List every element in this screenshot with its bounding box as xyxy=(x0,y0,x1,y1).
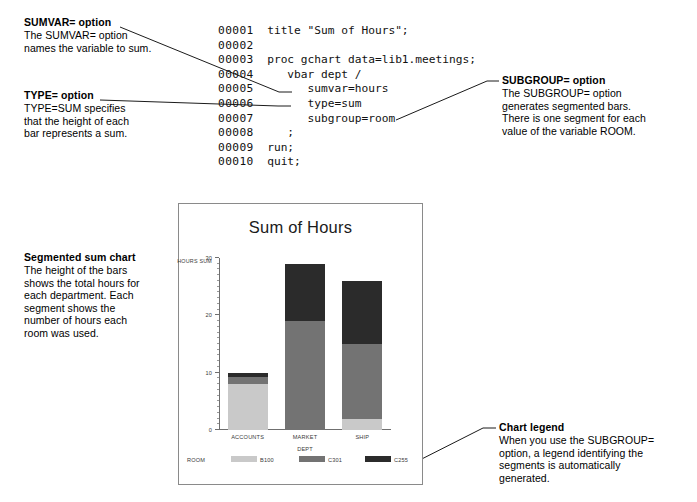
code-line: 00008 ; xyxy=(218,126,476,141)
callout-type-body: TYPE=SUM specifies that the height of ea… xyxy=(24,102,129,140)
code-line-number: 00002 xyxy=(218,39,254,52)
chart-bar xyxy=(228,373,268,430)
chart-bar-segment xyxy=(342,344,382,419)
y-axis-minor-tick xyxy=(217,332,219,333)
code-line-text: vbar dept / xyxy=(254,68,362,81)
callout-type: TYPE= option TYPE=SUM specifies that the… xyxy=(24,89,129,140)
y-axis-minor-tick xyxy=(217,297,219,298)
code-line: 00001 title "Sum of Hours"; xyxy=(218,24,476,39)
y-axis-minor-tick xyxy=(217,360,219,361)
callout-type-title: TYPE= option xyxy=(24,89,129,102)
y-axis-minor-tick xyxy=(217,406,219,407)
callout-chart-legend: Chart legend When you use the SUBGROUP= … xyxy=(499,421,654,484)
chart-legend-label: B100 xyxy=(260,457,274,463)
chart-bar-segment xyxy=(285,264,325,321)
x-axis-tick-label: MARKET xyxy=(275,434,335,440)
code-line-text: quit; xyxy=(254,155,301,168)
y-axis-minor-tick xyxy=(217,377,219,378)
code-line-number: 00010 xyxy=(218,155,254,168)
y-axis-minor-tick xyxy=(217,286,219,287)
y-axis-minor-tick xyxy=(217,400,219,401)
chart-legend: ROOM B100C301C255 xyxy=(187,454,415,468)
y-axis-tick-label: 30 xyxy=(172,255,212,261)
code-line-text: subgroup=room xyxy=(254,112,395,125)
code-line: 00004 vbar dept / xyxy=(218,68,476,83)
y-axis-minor-tick xyxy=(217,418,219,419)
chart-legend-swatch xyxy=(299,456,325,462)
code-line: 00003 proc gchart data=lib1.meetings; xyxy=(218,53,476,68)
y-axis-tick-label: 10 xyxy=(172,370,212,376)
code-line: 00009 run; xyxy=(218,141,476,156)
x-axis-tick-label: SHIP xyxy=(332,434,392,440)
callout-segmented-chart-body: The height of the bars shows the total h… xyxy=(24,264,140,340)
y-axis-minor-tick xyxy=(217,303,219,304)
code-line: 00002 xyxy=(218,39,476,54)
callout-sumvar-body: The SUMVAR= option names the variable to… xyxy=(24,29,151,54)
callout-segmented-chart: Segmented sum chart The height of the ba… xyxy=(24,251,140,340)
y-axis-minor-tick xyxy=(217,354,219,355)
chart-bar-segment xyxy=(342,281,382,344)
chart-title: Sum of Hours xyxy=(179,218,422,237)
y-axis-minor-tick xyxy=(217,412,219,413)
code-line-number: 00005 xyxy=(218,82,254,95)
code-line-number: 00004 xyxy=(218,68,254,81)
y-axis-minor-tick xyxy=(217,366,219,367)
chart-bar-segment xyxy=(342,419,382,430)
code-line-text: type=sum xyxy=(254,97,362,110)
y-axis-minor-tick xyxy=(217,291,219,292)
callout-subgroup-body: The SUBGROUP= option generates segmented… xyxy=(502,87,646,137)
chart-panel: Sum of Hours HOURS SUM 0102030 ACCOUNTSM… xyxy=(178,203,423,485)
code-line: 00006 type=sum xyxy=(218,97,476,112)
code-line-text: ; xyxy=(254,126,294,139)
chart-bar xyxy=(285,264,325,430)
y-axis-minor-tick xyxy=(217,326,219,327)
y-axis-minor-tick xyxy=(217,389,219,390)
callout-chart-legend-body: When you use the SUBGROUP= option, a leg… xyxy=(499,434,654,484)
chart-legend-label: C301 xyxy=(328,457,342,463)
chart-legend-swatch xyxy=(231,456,257,462)
code-line-number: 00001 xyxy=(218,24,254,37)
code-listing: 00001 title "Sum of Hours";00002 00003 p… xyxy=(218,24,476,170)
code-line-number: 00003 xyxy=(218,53,254,66)
chart-bar xyxy=(342,281,382,430)
x-axis-tick-label: ACCOUNTS xyxy=(218,434,278,440)
y-axis-tick xyxy=(215,257,219,258)
code-line-text: run; xyxy=(254,141,294,154)
y-axis-minor-tick xyxy=(217,274,219,275)
code-line-number: 00009 xyxy=(218,141,254,154)
chart-bar-segment xyxy=(228,373,268,378)
callout-sumvar: SUMVAR= option The SUMVAR= option names … xyxy=(24,16,151,54)
y-axis-tick xyxy=(215,429,219,430)
y-axis-tick-label: 20 xyxy=(172,312,212,318)
y-axis-minor-tick xyxy=(217,337,219,338)
callout-sumvar-title: SUMVAR= option xyxy=(24,16,151,29)
chart-bar-segment xyxy=(228,377,268,384)
code-line-text xyxy=(254,39,267,52)
y-axis-tick xyxy=(215,372,219,373)
y-axis-tick xyxy=(215,314,219,315)
y-axis-minor-tick xyxy=(217,343,219,344)
y-axis-minor-tick xyxy=(217,309,219,310)
chart-bar-segment xyxy=(285,321,325,430)
y-axis-minor-tick xyxy=(217,349,219,350)
code-line-number: 00006 xyxy=(218,97,254,110)
y-axis-minor-tick xyxy=(217,395,219,396)
code-line: 00005 sumvar=hours xyxy=(218,82,476,97)
callout-segmented-chart-title: Segmented sum chart xyxy=(24,251,140,264)
code-line-number: 00007 xyxy=(218,112,254,125)
chart-legend-swatch xyxy=(365,456,391,462)
y-axis-tick-label: 0 xyxy=(172,427,212,433)
callout-chart-legend-title: Chart legend xyxy=(499,421,654,434)
code-line-text: title "Sum of Hours"; xyxy=(254,24,409,37)
callout-subgroup: SUBGROUP= option The SUBGROUP= option ge… xyxy=(502,74,646,137)
x-axis-title: DEPT xyxy=(219,446,391,452)
code-line-text: proc gchart data=lib1.meetings; xyxy=(254,53,476,66)
y-axis-line xyxy=(219,258,220,430)
code-line: 00007 subgroup=room xyxy=(218,112,476,127)
code-line: 00010 quit; xyxy=(218,155,476,170)
code-line-text: sumvar=hours xyxy=(254,82,389,95)
y-axis-minor-tick xyxy=(217,263,219,264)
chart-plot-area: HOURS SUM 0102030 ACCOUNTSMARKETSHIP DEP… xyxy=(219,258,391,430)
y-axis-minor-tick xyxy=(217,423,219,424)
y-axis-minor-tick xyxy=(217,320,219,321)
